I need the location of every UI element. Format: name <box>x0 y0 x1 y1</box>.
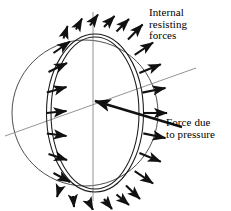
force-arrow <box>64 26 68 39</box>
force-arrow <box>73 196 74 207</box>
force-arrow <box>104 16 115 27</box>
force-arrow <box>47 134 67 137</box>
internal-resisting-force-arrows <box>47 15 168 211</box>
internal-resisting-forces-label: Internal resisting forces <box>149 7 187 42</box>
force-arrow <box>57 187 60 197</box>
force-arrow <box>126 186 140 200</box>
force-arrow <box>117 195 130 206</box>
force-arrow <box>47 111 67 113</box>
pressure-sphere-diagram: Internal resisting forces Force due to p… <box>0 0 231 210</box>
force-arrow <box>88 201 93 211</box>
force-arrow <box>128 24 143 39</box>
force-arrow <box>49 63 68 72</box>
force-due-to-pressure-label: Force due to pressure <box>166 117 215 140</box>
diagram-canvas <box>0 0 231 210</box>
shell-ring <box>47 34 144 192</box>
force-arrow <box>135 43 153 55</box>
force-arrow <box>104 199 112 209</box>
force-arrow <box>143 133 165 138</box>
force-arrow <box>117 19 130 32</box>
force-arrow <box>47 87 67 93</box>
force-arrow <box>135 171 153 183</box>
force-arrow <box>76 19 82 30</box>
force-arrow <box>90 15 98 26</box>
